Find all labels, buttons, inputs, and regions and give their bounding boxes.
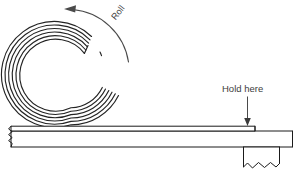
technical-illustration: Roll Hold here [0,0,302,178]
coil-turn-3 [9,29,112,121]
hold-here-label: Hold here [222,83,263,94]
tab-body [244,147,280,168]
coil-inner-end-cap [100,52,102,56]
coil-turn-5 [16,36,106,115]
torn-hanging-tab [244,147,280,168]
coil-turn-6-inner [20,39,103,111]
hold-arrow-head [244,118,251,126]
downward-pointer-arrow [244,97,251,127]
roll-arrow-head [64,5,76,12]
figure-container: Roll Hold here [0,0,302,178]
spiral-roll [1,21,118,127]
roll-label: Roll [109,3,126,21]
flat-strip [9,126,293,147]
strip-top-lamina [11,126,255,131]
strip-body [11,131,293,147]
roll-label-group: Roll [109,3,126,21]
coil-turn-4 [12,32,109,118]
